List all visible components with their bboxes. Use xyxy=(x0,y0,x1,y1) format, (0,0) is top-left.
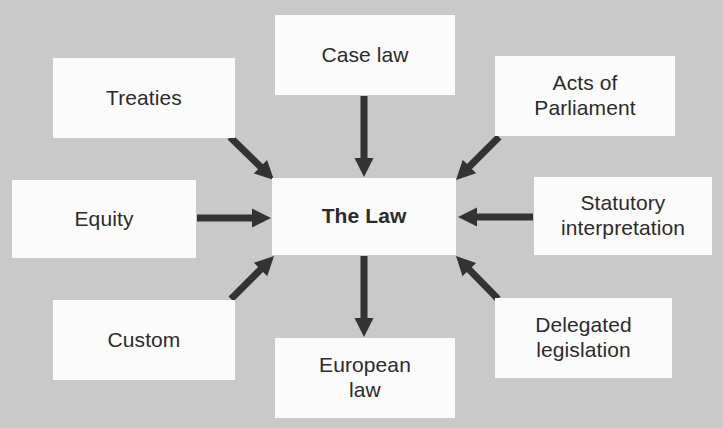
arrow-delegated-legislation-to-the-law xyxy=(456,256,501,301)
diagram-canvas: TreatiesCase lawActs of ParliamentEquity… xyxy=(0,0,723,428)
arrow-treaties-to-the-law xyxy=(228,135,274,181)
node-label-the-law: The Law xyxy=(316,204,413,229)
node-acts-of-parliament: Acts of Parliament xyxy=(495,56,675,136)
node-label-acts-of-parliament: Acts of Parliament xyxy=(528,71,641,121)
arrow-equity-to-the-law xyxy=(197,209,271,228)
node-label-delegated-legislation: Delegated legislation xyxy=(529,313,638,363)
node-label-custom: Custom xyxy=(102,328,187,353)
node-delegated-legislation: Delegated legislation xyxy=(495,298,672,378)
node-case-law: Case law xyxy=(275,15,455,95)
arrow-acts-of-parliament-to-the-law xyxy=(456,135,501,180)
node-european-law: European law xyxy=(275,338,455,418)
node-treaties: Treaties xyxy=(53,58,235,138)
arrow-statutory-interpretation-to-the-law xyxy=(458,208,533,227)
node-label-case-law: Case law xyxy=(315,43,414,68)
node-statutory-interpretation: Statutory interpretation xyxy=(534,177,712,255)
node-the-law: The Law xyxy=(272,178,456,255)
node-equity: Equity xyxy=(12,180,196,258)
node-custom: Custom xyxy=(53,300,235,380)
arrow-custom-to-the-law xyxy=(229,256,274,301)
node-label-statutory-interpretation: Statutory interpretation xyxy=(555,191,691,241)
node-label-treaties: Treaties xyxy=(100,86,188,111)
node-label-equity: Equity xyxy=(69,207,140,232)
node-label-european-law: European law xyxy=(313,353,417,403)
arrow-the-law-to-european-law xyxy=(355,256,374,337)
arrow-case-law-to-the-law xyxy=(355,96,374,177)
